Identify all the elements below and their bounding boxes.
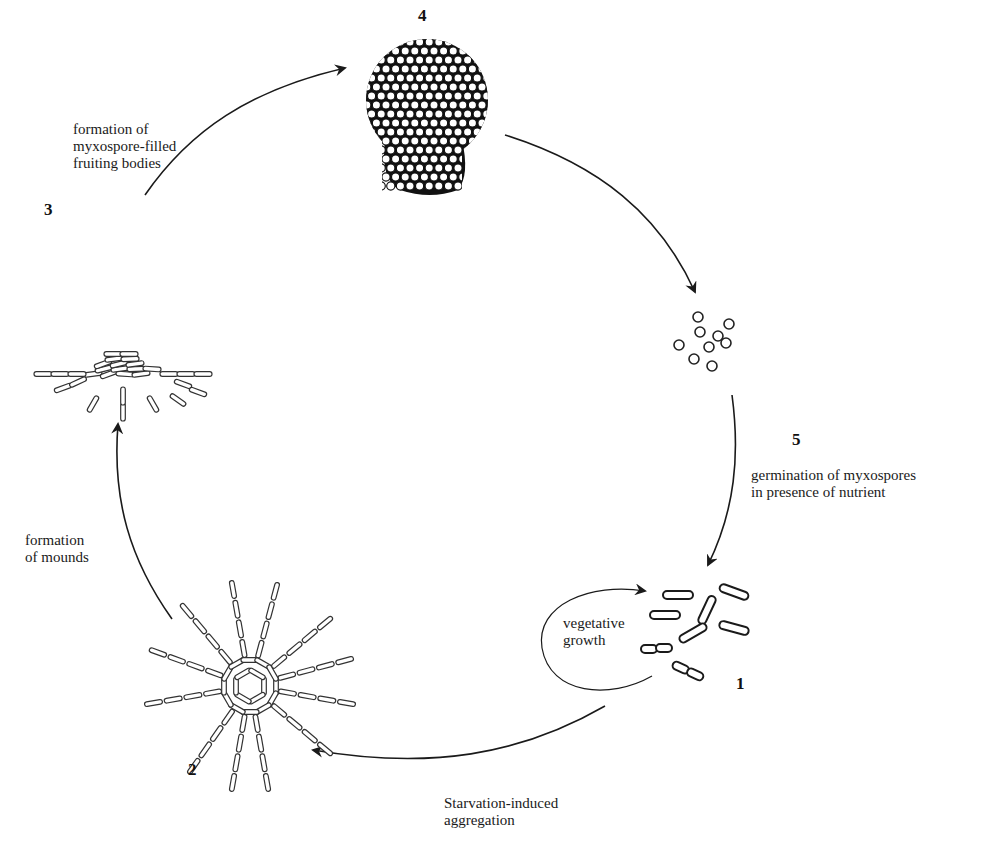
stage-4-number: 4 xyxy=(418,6,427,26)
arrow-5-to-1 xyxy=(708,395,735,565)
label-formation-of-mounds: formation of mounds xyxy=(25,532,89,566)
stage-2-number: 2 xyxy=(188,760,197,780)
label-germination: germination of myxospores in presence of… xyxy=(751,467,916,501)
arrow-1-to-2 xyxy=(313,706,605,759)
stage-3-number: 3 xyxy=(44,200,53,220)
fruiting-body-icon xyxy=(358,38,515,195)
vegetative-cells-icon xyxy=(641,583,750,681)
label-fruiting-body-formation: formation of myxospore-filled fruiting b… xyxy=(73,121,176,172)
arrow-4-to-5 xyxy=(505,135,695,292)
stage-5-number: 5 xyxy=(792,430,801,450)
aggregation-icon xyxy=(144,580,356,792)
mound-icon xyxy=(34,352,212,421)
stage-1-number: 1 xyxy=(736,674,745,694)
arrow-2-to-3 xyxy=(117,424,172,619)
label-vegetative-growth: vegetative growth xyxy=(563,615,625,649)
myxospores-icon xyxy=(674,312,734,371)
label-starvation-aggregation: Starvation-induced aggregation xyxy=(444,795,558,829)
